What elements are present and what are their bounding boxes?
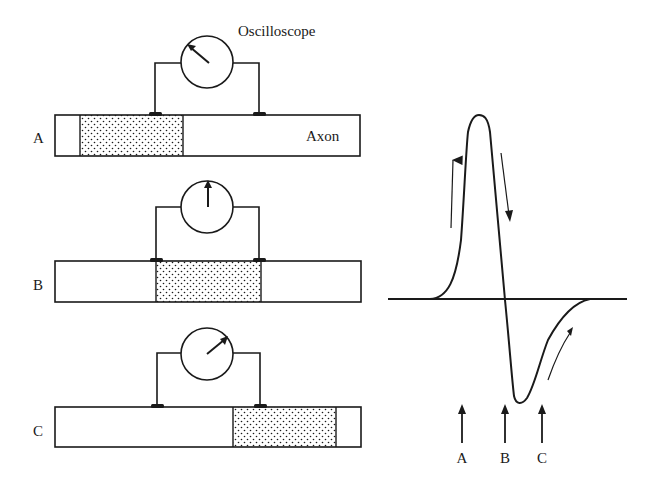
marker-label-a: A [457,450,468,466]
panel-label-a: A [33,130,44,146]
rising-arrow-icon [451,160,453,228]
arrow-up-icon [538,404,546,414]
panel-a: Oscilloscope Axon A [33,23,360,156]
depolarized-region [156,261,261,302]
marker-a: A [457,404,468,466]
falling-arrow-icon [501,153,509,215]
wire-right [233,207,259,261]
panel-b: B [33,180,361,302]
marker-label-b: B [500,450,510,466]
wire-right [233,353,260,407]
wire-left [157,353,181,407]
wire-right [233,63,259,115]
oscilloscope-icon [181,328,233,380]
arrow-up-icon [501,404,509,414]
wire-left [155,63,181,115]
depolarized-region [233,407,336,447]
marker-b: B [500,404,510,466]
panel-label-c: C [33,423,43,439]
axon-label: Axon [306,128,340,144]
wire-left [156,207,181,261]
signal-curve [388,115,627,403]
panel-label-b: B [33,277,43,293]
axon-recording-diagram: Oscilloscope Axon A B [0,0,653,490]
oscilloscope-icon [181,36,233,88]
oscilloscope-label: Oscilloscope [238,23,316,39]
marker-label-c: C [537,450,547,466]
recovery-arrow-icon [548,333,570,380]
biphasic-trace: A B C [388,115,627,466]
panel-c: C [33,328,361,447]
marker-c: C [537,404,547,466]
arrow-up-icon [458,404,466,414]
oscilloscope-icon [181,180,233,233]
depolarized-region [80,115,183,156]
